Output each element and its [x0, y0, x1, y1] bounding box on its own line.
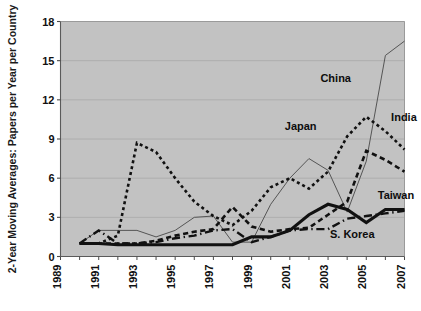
line-chart: 0369121518198919911993199519971999200120… [0, 0, 421, 311]
x-tick-label-2007: 2007 [395, 265, 407, 289]
x-tick-label-2003: 2003 [318, 265, 330, 289]
x-tick-label-2005: 2005 [356, 265, 368, 289]
x-tick-label-1993: 1993 [127, 265, 139, 289]
series-label-japan: Japan [285, 120, 317, 132]
y-tick-label-0: 0 [48, 251, 54, 263]
series-label-s--korea: S. Korea [330, 228, 376, 240]
series-label-china: China [320, 72, 351, 84]
x-tick-label-1989: 1989 [51, 265, 63, 289]
x-tick-label-1997: 1997 [203, 265, 215, 289]
y-tick-label-18: 18 [42, 16, 54, 28]
x-tick-label-1991: 1991 [89, 265, 101, 289]
y-tick-label-9: 9 [48, 133, 54, 145]
y-tick-label-15: 15 [42, 55, 54, 67]
y-tick-label-6: 6 [48, 172, 54, 184]
series-label-taiwan: Taiwan [378, 189, 415, 201]
x-tick-label-1999: 1999 [242, 265, 254, 289]
chart-figure: 0369121518198919911993199519971999200120… [0, 0, 421, 311]
y-tick-label-3: 3 [48, 211, 54, 223]
y-axis-title: 2-Year Moving Averages: Papers per Year … [6, 5, 18, 274]
y-tick-label-12: 12 [42, 94, 54, 106]
x-tick-label-1995: 1995 [165, 265, 177, 289]
series-label-india: India [391, 111, 418, 123]
x-tick-label-2001: 2001 [280, 265, 292, 289]
